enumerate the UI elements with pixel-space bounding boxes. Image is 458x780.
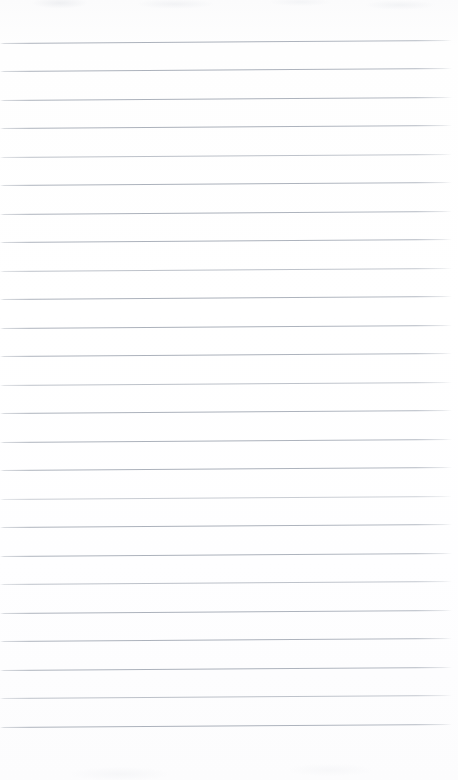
notepad-page [0, 0, 458, 780]
writing-area[interactable] [0, 43, 458, 727]
